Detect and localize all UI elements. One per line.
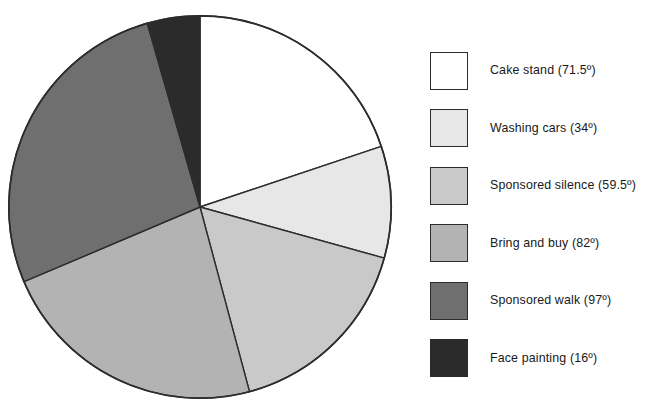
legend-item-sponsored-silence[interactable]: Sponsored silence (59.5º) <box>430 165 636 206</box>
chart-legend: Cake stand (71.5º)Washing cars (34º)Spon… <box>430 50 654 390</box>
legend-swatch-icon <box>430 109 468 147</box>
legend-item-label: Sponsored silence (59.5º) <box>490 179 636 191</box>
legend-item-label: Face painting (16º) <box>490 352 597 364</box>
pie-chart-figure: Cake stand (71.5º)Washing cars (34º)Spon… <box>0 0 657 410</box>
pie-chart-svg: Cake stand (71.5º)Washing cars (34º)Spon… <box>7 12 395 402</box>
legend-swatch-icon <box>430 339 468 377</box>
legend-item-washing-cars[interactable]: Washing cars (34º) <box>430 108 597 149</box>
legend-item-bring-and-buy[interactable]: Bring and buy (82º) <box>430 223 599 264</box>
legend-swatch-icon <box>430 224 468 262</box>
pie-chart-plot-area: Cake stand (71.5º)Washing cars (34º)Spon… <box>7 12 395 402</box>
pie-slice-group: Cake stand (71.5º)Washing cars (34º)Spon… <box>9 16 391 398</box>
legend-item-label: Sponsored walk (97º) <box>490 294 611 306</box>
legend-item-label: Bring and buy (82º) <box>490 237 599 249</box>
legend-item-cake-stand[interactable]: Cake stand (71.5º) <box>430 50 596 91</box>
legend-item-label: Washing cars (34º) <box>490 122 597 134</box>
legend-swatch-icon <box>430 282 468 320</box>
legend-item-sponsored-walk[interactable]: Sponsored walk (97º) <box>430 280 611 321</box>
legend-swatch-icon <box>430 52 468 90</box>
legend-item-face-painting[interactable]: Face painting (16º) <box>430 338 597 379</box>
legend-item-label: Cake stand (71.5º) <box>490 64 596 76</box>
legend-swatch-icon <box>430 167 468 205</box>
